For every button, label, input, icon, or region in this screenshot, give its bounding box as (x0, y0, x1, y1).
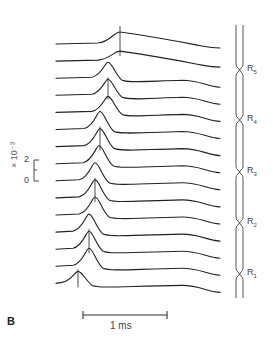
amplitude-scale-bar (34, 160, 39, 181)
current-trace (56, 96, 220, 121)
myelin-internode (236, 72, 243, 118)
node-label-r1: R1 (247, 267, 257, 279)
node-label-r4: R4 (247, 113, 257, 125)
node-label-r2: R2 (247, 216, 257, 228)
current-trace (56, 51, 220, 67)
time-scale-label: 1 ms (110, 320, 132, 331)
node-label-r5: R5 (247, 63, 257, 75)
current-trace (56, 79, 220, 104)
node-of-ranvier (238, 272, 241, 276)
myelin-internode (236, 225, 243, 272)
current-trace (56, 32, 220, 48)
panel-label: B (7, 315, 15, 327)
myelin-internode (236, 276, 243, 298)
figure-canvas (0, 0, 273, 344)
amplitude-tick-2: 2 (24, 154, 29, 164)
current-trace (56, 271, 220, 292)
myelin-internode (236, 25, 243, 68)
peak-markers (78, 26, 120, 287)
current-trace (56, 62, 220, 87)
current-traces (56, 32, 220, 292)
node-label-r3: R3 (247, 165, 257, 177)
myelinated-axon-diagram (236, 25, 243, 298)
node-of-ranvier (238, 68, 241, 72)
amplitude-tick-0: 0 (24, 175, 29, 185)
amplitude-unit-label: × 10⁻³ (9, 135, 19, 175)
node-of-ranvier (238, 170, 241, 174)
myelin-internode (236, 122, 243, 170)
myelin-internode (236, 174, 243, 221)
time-scale-bar (83, 311, 167, 319)
node-of-ranvier (238, 221, 241, 225)
node-of-ranvier (238, 118, 241, 122)
